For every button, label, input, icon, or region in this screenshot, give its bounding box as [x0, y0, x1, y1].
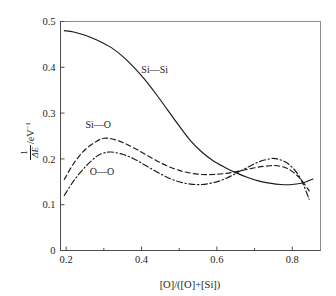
- y-tick-label: 0: [50, 245, 55, 256]
- y-tick-label: 0.3: [42, 108, 55, 119]
- series-line-1: [64, 31, 313, 185]
- x-axis-title: [O]/([O]+[Si]): [160, 279, 221, 291]
- x-axis-ticks: [66, 247, 292, 251]
- x-tick-label: 0.4: [135, 254, 149, 265]
- series-label-2: Si—O: [85, 119, 111, 130]
- y-tick-label: 0.5: [42, 16, 55, 27]
- x-tick-label: 0.2: [60, 254, 73, 265]
- series-line-2: [64, 138, 309, 191]
- y-tick-label: 0.2: [42, 154, 55, 165]
- y-tick-label: 0.4: [42, 62, 56, 73]
- y-axis-ticks: [61, 22, 65, 251]
- y-tick-label: 0.1: [42, 199, 55, 210]
- x-axis-tick-labels: 0.20.40.60.8: [60, 254, 299, 265]
- series-label-3: O—O: [90, 166, 114, 177]
- chart-canvas: 0.20.40.60.8 00.10.20.30.40.5 Si—SiSi—OO…: [0, 0, 336, 296]
- x-tick-label: 0.8: [286, 254, 299, 265]
- x-tick-label: 0.6: [210, 254, 223, 265]
- plot-frame: [61, 22, 321, 251]
- chart-figure: 0.20.40.60.8 00.10.20.30.40.5 Si—SiSi—OO…: [0, 0, 336, 296]
- series-label-1: Si—Si: [141, 64, 168, 75]
- y-axis-tick-labels: 00.10.20.30.40.5: [42, 16, 56, 256]
